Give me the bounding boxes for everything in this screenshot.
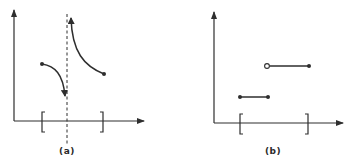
figure-canvas bbox=[0, 0, 351, 164]
left-branch-curve bbox=[42, 64, 65, 96]
right-branch-curve bbox=[71, 18, 104, 74]
left-branch-start-dot bbox=[40, 62, 44, 66]
lower-step-right-dot bbox=[266, 95, 270, 99]
right-bracket-b bbox=[305, 114, 308, 134]
panel-a-label: (a) bbox=[59, 146, 75, 156]
left-bracket-a bbox=[42, 112, 45, 132]
panel-b bbox=[214, 12, 343, 134]
lower-step-left-dot bbox=[238, 95, 242, 99]
right-bracket-a bbox=[100, 112, 103, 132]
panel-b-label: (b) bbox=[265, 146, 281, 156]
panel-a bbox=[14, 10, 144, 145]
left-bracket-b bbox=[240, 114, 243, 134]
right-branch-end-dot bbox=[102, 72, 106, 76]
upper-step-right-dot bbox=[307, 64, 311, 68]
upper-step-open-circle bbox=[265, 64, 270, 69]
